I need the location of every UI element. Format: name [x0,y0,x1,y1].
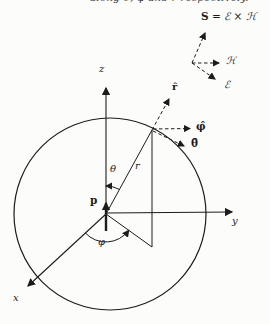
r-hat-label: r̂ [172,82,177,92]
phi-hat-arrow [153,129,190,130]
x-axis [28,214,106,286]
theta-label: θ [110,164,116,174]
e-field-arrow [192,63,215,79]
figure-dipole-radiation-geometry: along θ̂, φ̂ and r̂ respectively. S = ℰ … [0,0,270,324]
poynting-vector-arrow [192,33,205,63]
sphere-outline [14,118,206,310]
r-hat-arrow [152,99,169,130]
theta-hat-label: θ̂ [191,138,198,149]
projection-slant-line [106,214,152,247]
z-axis-label: z [99,64,104,74]
phi-hat-label: φ̂ [196,121,206,132]
poynting-equation: S = ℰ × ℋ [201,11,256,22]
radius-label: r [135,161,140,171]
poynting-equation-rhs: = ℰ × ℋ [209,10,256,22]
theta-angle-arc [106,186,119,189]
e-field-label: ℰ [224,80,230,90]
y-axis [106,212,232,213]
h-field-label: ℋ [226,56,236,66]
poynting-equation-s: S [201,10,209,22]
phi-angle-arc [85,230,128,242]
caption-fragment: along θ̂, φ̂ and r̂ respectively. [90,0,249,3]
dipole-moment-label: p [90,195,97,206]
x-axis-label: x [13,293,19,303]
phi-label: φ [98,237,105,247]
y-axis-label: y [232,216,238,226]
